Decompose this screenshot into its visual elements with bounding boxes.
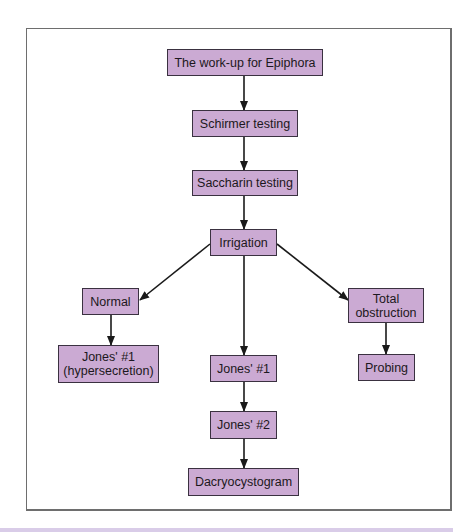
node-jones1-hypersecretion: Jones' #1 (hypersecretion)	[58, 345, 159, 383]
node-dacryocystogram: Dacryocystogram	[188, 468, 299, 496]
node-workup-for-epiphora: The work-up for Epiphora	[167, 49, 323, 76]
node-jones2: Jones' #2	[210, 411, 277, 439]
arrow-irrigation-to-total-obstruction	[277, 244, 348, 300]
node-jones1: Jones' #1	[210, 355, 277, 382]
node-total-obstruction: Total obstruction	[348, 288, 424, 323]
node-irrigation: Irrigation	[210, 229, 277, 256]
bottom-color-band	[0, 528, 453, 532]
node-normal: Normal	[82, 288, 139, 315]
node-schirmer-testing: Schirmer testing	[192, 110, 298, 137]
flow-arrows	[0, 0, 474, 532]
node-probing: Probing	[358, 354, 415, 381]
arrow-irrigation-to-normal	[140, 244, 210, 300]
node-saccharin-testing: Saccharin testing	[192, 170, 298, 196]
